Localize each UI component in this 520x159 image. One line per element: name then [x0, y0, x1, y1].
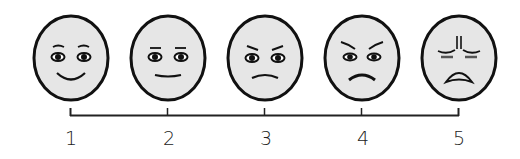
face-2-neutral-icon [131, 16, 205, 100]
scale-axis [70, 108, 459, 116]
scale-label-2: 2 [154, 127, 184, 149]
face-4-frowning-icon [325, 16, 399, 100]
scale-label-4: 4 [348, 127, 378, 149]
scale-label-3: 3 [251, 127, 281, 149]
face-1-smiling-icon [34, 16, 108, 100]
face-3-slight-frown-icon [228, 16, 302, 100]
face-5-grimacing-icon [422, 16, 496, 100]
scale-label-1: 1 [56, 127, 86, 149]
scale-label-5: 5 [444, 127, 474, 149]
